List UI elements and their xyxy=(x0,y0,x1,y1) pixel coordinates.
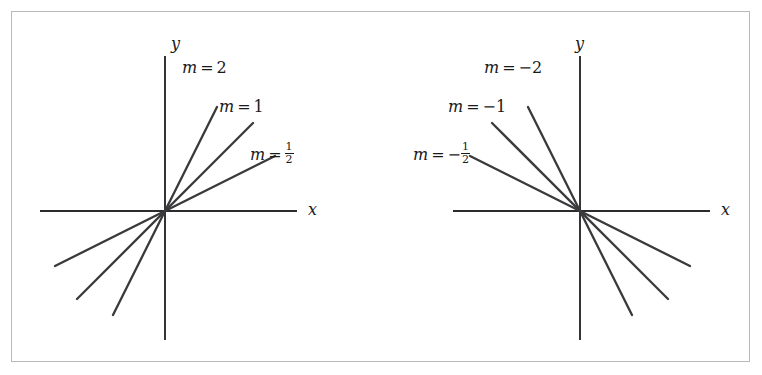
x-axis-label: x xyxy=(721,202,730,218)
fraction-numerator: 1 xyxy=(461,141,470,154)
label-slope-neg-2: m=−2 xyxy=(484,60,542,76)
slope-variable: m xyxy=(219,97,234,116)
fraction-denominator: 2 xyxy=(285,154,294,166)
slope-variable: m xyxy=(413,145,428,164)
fraction-numerator: 1 xyxy=(285,141,294,154)
minus-sign: − xyxy=(483,97,496,116)
fraction-denominator: 2 xyxy=(461,154,470,166)
panel-negative-slopes: y x m=−2 m=−1 m=−12 xyxy=(381,0,762,375)
y-axis-label: y xyxy=(171,36,180,52)
equals-sign: = xyxy=(268,145,281,164)
slope-variable: m xyxy=(182,58,197,77)
equals-sign: = xyxy=(237,97,250,116)
fraction-one-half: 12 xyxy=(285,141,294,165)
fraction-one-half: 12 xyxy=(461,141,470,165)
negative-slopes-plot xyxy=(381,0,762,375)
label-slope-1: m=1 xyxy=(219,99,264,115)
minus-sign: − xyxy=(519,58,532,77)
slope-variable: m xyxy=(484,58,499,77)
minus-sign: − xyxy=(448,145,461,164)
slope-value: 1 xyxy=(496,97,506,116)
x-axis-label: x xyxy=(308,202,317,218)
slope-value: 2 xyxy=(532,58,542,77)
label-slope-neg-1: m=−1 xyxy=(448,99,506,115)
panel-positive-slopes: y x m=2 m=1 m=12 xyxy=(0,0,381,375)
label-slope-neg-one-half: m=−12 xyxy=(413,142,470,166)
slope-variable: m xyxy=(448,97,463,116)
slope-value: 1 xyxy=(254,97,264,116)
equals-sign: = xyxy=(502,58,515,77)
equals-sign: = xyxy=(200,58,213,77)
y-axis-label: y xyxy=(575,36,584,52)
slope-variable: m xyxy=(250,145,265,164)
label-slope-2: m=2 xyxy=(182,60,227,76)
label-slope-one-half: m=12 xyxy=(250,142,294,166)
slope-figure: y x m=2 m=1 m=12 y x m=−2 xyxy=(0,0,762,375)
slope-value: 2 xyxy=(217,58,227,77)
equals-sign: = xyxy=(431,145,444,164)
positive-slopes-plot xyxy=(0,0,381,375)
equals-sign: = xyxy=(466,97,479,116)
